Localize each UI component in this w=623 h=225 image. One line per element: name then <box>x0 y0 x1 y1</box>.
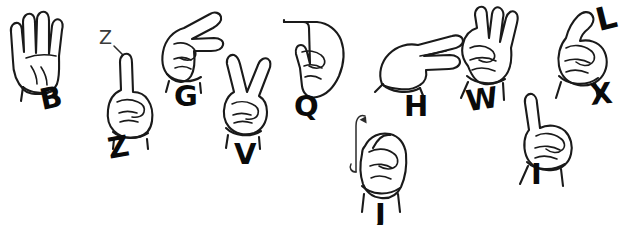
sign-label-q: Q <box>294 92 319 121</box>
hand-pinky-up-icon <box>508 92 584 188</box>
sign-label-w: W <box>464 83 500 116</box>
sign-label-h: H <box>404 92 428 121</box>
sign-label-j: J <box>375 200 386 225</box>
sign-label-g: G <box>174 82 198 111</box>
sign-label-x: X <box>589 79 614 110</box>
sign-label-v: V <box>234 140 256 169</box>
sign-label-i: I <box>531 160 542 189</box>
sign-figure-i <box>508 92 584 188</box>
z-motion-trace-icon: Z <box>99 28 112 47</box>
asl-fingerspelling-chart: B Z Z G <box>0 0 623 225</box>
